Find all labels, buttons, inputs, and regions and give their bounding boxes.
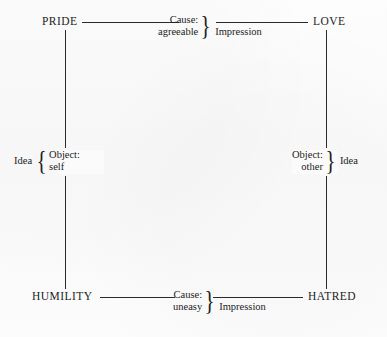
node-love-label: LOVE xyxy=(313,15,345,27)
edge-annotation-bottom: Cause: uneasy } Impression xyxy=(173,289,268,313)
edge-line-right-lower-segment xyxy=(326,176,327,289)
brace-left-icon: { xyxy=(36,150,48,172)
edge-left-relation-kind: Idea xyxy=(12,156,34,167)
edge-left-relation-line1: Object: xyxy=(49,149,80,161)
edge-top-relation-line2: agreeable xyxy=(158,26,198,38)
brace-right-icon: } xyxy=(200,15,212,37)
node-humility[interactable]: HUMILITY xyxy=(32,291,92,303)
edge-right-relation-line2: other xyxy=(301,161,323,173)
brace-right-icon: } xyxy=(325,150,337,172)
edge-line-left-lower-segment xyxy=(65,176,66,289)
node-love[interactable]: LOVE xyxy=(313,16,345,28)
edge-top-relation-line1: Cause: xyxy=(170,14,199,26)
edge-left-relation: Object: self xyxy=(49,149,80,173)
node-pride[interactable]: PRIDE xyxy=(42,16,77,28)
edge-bottom-relation-line2: uneasy xyxy=(173,301,202,313)
edge-right-relation-line1: Object: xyxy=(292,149,323,161)
edge-left-relation-line2: self xyxy=(49,161,64,173)
passions-diagram: PRIDE LOVE HUMILITY HATRED Cause: agreea… xyxy=(0,0,387,337)
node-hatred[interactable]: HATRED xyxy=(308,291,356,303)
edge-bottom-relation-line1: Cause: xyxy=(174,289,203,301)
edge-annotation-left: Idea { Object: self xyxy=(12,149,80,173)
edge-top-relation-kind: Impression xyxy=(213,27,264,39)
edge-top-relation: Cause: agreeable xyxy=(158,14,198,38)
edge-annotation-top: Cause: agreeable } Impression xyxy=(158,14,264,38)
edge-annotation-right: Object: other } Idea xyxy=(292,149,360,173)
edge-right-relation-kind: Idea xyxy=(338,156,360,167)
edge-line-bottom-left-segment xyxy=(100,297,175,298)
brace-right-icon: } xyxy=(204,290,216,312)
node-pride-label: PRIDE xyxy=(42,15,77,27)
node-hatred-label: HATRED xyxy=(308,290,356,302)
edge-bottom-relation: Cause: uneasy xyxy=(173,289,202,313)
edge-bottom-relation-kind: Impression xyxy=(217,302,268,314)
edge-line-left-upper-segment xyxy=(65,30,66,148)
edge-line-right-upper-segment xyxy=(326,30,327,148)
edge-right-relation: Object: other xyxy=(292,149,323,173)
node-humility-label: HUMILITY xyxy=(32,290,92,302)
